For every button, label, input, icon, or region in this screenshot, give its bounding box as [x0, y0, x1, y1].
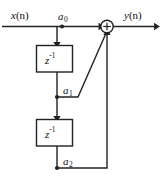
fir-filter-diagram: x(n) y(n) a0 a1 a2 z-1 z-1	[0, 0, 160, 180]
coef-a0-base: a	[58, 10, 64, 22]
delay-1-exponent: -1	[49, 51, 55, 60]
coef-a1-base: a	[63, 84, 69, 96]
output-arg: (n)	[129, 9, 142, 21]
coef-a1-sub: 1	[69, 89, 73, 98]
delay-block-2-label: z-1	[45, 127, 56, 140]
input-signal-label: x(n)	[11, 10, 29, 21]
signal-flow-graph-canvas	[0, 0, 160, 180]
delay-2-exponent: -1	[49, 125, 55, 134]
input-arg: (n)	[16, 9, 29, 21]
output-signal-label: y(n)	[124, 10, 142, 21]
coefficient-label-a0: a0	[58, 11, 67, 22]
tap-point-a0	[60, 24, 64, 28]
coef-a0-sub: 0	[64, 15, 68, 24]
coef-a2-base: a	[63, 155, 69, 167]
delay-block-1-label: z-1	[45, 53, 56, 66]
coefficient-label-a1: a1	[63, 85, 72, 96]
coefficient-label-a2: a2	[63, 156, 72, 167]
coef-a2-sub: 2	[69, 160, 73, 169]
